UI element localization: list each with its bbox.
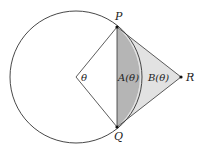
label-p: P bbox=[114, 10, 123, 23]
radius-op bbox=[76, 27, 117, 77]
label-a-theta: A(θ) bbox=[117, 72, 139, 83]
circle-segment-diagram: P Q R θ A(θ) B(θ) bbox=[0, 0, 205, 149]
point-r bbox=[179, 75, 182, 78]
radius-oq bbox=[76, 77, 117, 127]
label-q: Q bbox=[114, 130, 123, 143]
point-q bbox=[115, 125, 118, 128]
label-r: R bbox=[185, 71, 194, 84]
point-p bbox=[115, 25, 118, 28]
label-theta: θ bbox=[81, 72, 87, 83]
label-b-theta: B(θ) bbox=[147, 72, 169, 83]
